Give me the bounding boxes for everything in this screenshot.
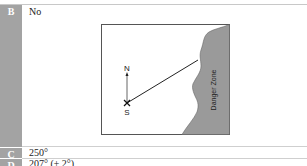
- answer-row-c: C 250°: [0, 148, 307, 158]
- option-text-d: 207° (± 2°): [29, 158, 74, 166]
- row-divider: [22, 146, 307, 147]
- option-label-b: B: [0, 5, 22, 147]
- option-text-c: 250°: [29, 147, 48, 158]
- answer-row-b: B No Danger Zone N S: [0, 5, 307, 147]
- danger-zone-label: Danger Zone: [210, 69, 218, 110]
- south-label: S: [124, 108, 129, 117]
- north-label: N: [124, 64, 130, 73]
- option-text-b: No: [29, 6, 41, 17]
- compass-diagram: Danger Zone N S: [101, 24, 231, 136]
- option-label-d: D: [0, 159, 22, 166]
- option-label-c: C: [0, 148, 22, 158]
- answer-row-d: D 207° (± 2°): [0, 159, 307, 166]
